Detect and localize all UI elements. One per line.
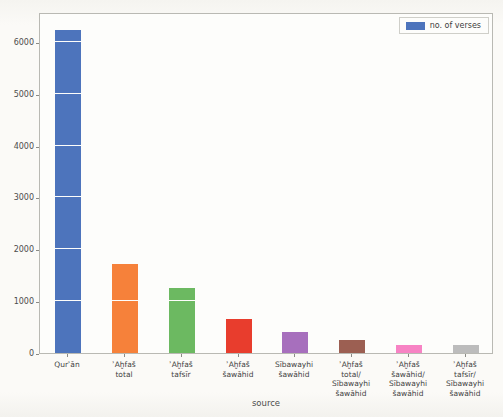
x-tick-label-1: Qurʾān [36, 360, 98, 370]
x-tick-mark [67, 354, 68, 357]
x-tick-label-8: ʾAḫfaš tafsīr/ Sībawayhi šawāhid [434, 360, 496, 398]
y-tick-label-4000: 4000 [0, 143, 34, 151]
x-tick-mark [181, 354, 182, 357]
y-tick-mark [36, 250, 39, 251]
y-tick-mark [36, 43, 39, 44]
figure-background: 0100020003000400050006000 QurʾānʾAḫfaš t… [0, 0, 503, 417]
x-tick-label-6: ʾAḫfaš total/ Sībawayhi šawāhid [320, 360, 382, 398]
gridline-2000 [40, 248, 492, 249]
bar-8 [453, 345, 479, 353]
x-tick-label-7: ʾAḫfaš šawāhid/ Sībawayhi šawāhid [377, 360, 439, 398]
y-tick-mark [36, 147, 39, 148]
x-tick-label-5: Sībawayhi šawāhid [263, 360, 325, 379]
x-tick-mark [408, 354, 409, 357]
bar-7 [396, 345, 422, 353]
y-tick-label-2000: 2000 [0, 246, 34, 254]
legend: no. of verses [399, 17, 489, 34]
y-tick-mark [36, 198, 39, 199]
x-tick-label-2: ʾAḫfaš total [93, 360, 155, 379]
gridline-6000 [40, 41, 492, 42]
x-tick-label-4: ʾAḫfaš šawāhid [207, 360, 269, 379]
legend-label: no. of verses [430, 21, 481, 30]
x-tick-mark [238, 354, 239, 357]
x-tick-mark [294, 354, 295, 357]
bar-4 [226, 319, 252, 353]
x-tick-mark [465, 354, 466, 357]
y-tick-mark [36, 95, 39, 96]
y-tick-label-3000: 3000 [0, 194, 34, 202]
x-axis-title: source [39, 398, 493, 408]
gridline-3000 [40, 196, 492, 197]
y-tick-mark [36, 354, 39, 355]
gridline-4000 [40, 145, 492, 146]
gridline-5000 [40, 93, 492, 94]
y-tick-label-6000: 6000 [0, 39, 34, 47]
y-tick-label-5000: 5000 [0, 91, 34, 99]
y-tick-mark [36, 302, 39, 303]
plot-area [39, 13, 493, 354]
x-tick-mark [351, 354, 352, 357]
y-tick-label-1000: 1000 [0, 298, 34, 306]
legend-swatch-icon [406, 22, 425, 30]
bar-2 [112, 264, 138, 353]
y-tick-label-0: 0 [0, 350, 34, 358]
bar-3 [169, 288, 195, 353]
bar-1 [55, 30, 81, 353]
x-tick-label-3: ʾAḫfaš tafsīr [150, 360, 212, 379]
gridline-1000 [40, 300, 492, 301]
bar-5 [282, 332, 308, 353]
bar-6 [339, 340, 365, 353]
x-tick-mark [124, 354, 125, 357]
